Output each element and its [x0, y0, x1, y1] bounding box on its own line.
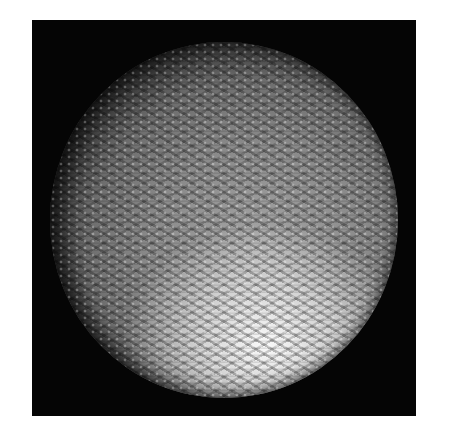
limb-shading — [50, 42, 398, 398]
textured-sphere — [50, 42, 398, 398]
image-frame — [32, 20, 416, 416]
